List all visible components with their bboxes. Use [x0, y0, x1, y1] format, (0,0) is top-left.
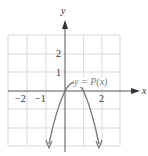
- x-axis-label: x: [142, 86, 146, 96]
- y-axis-arrow-icon: [62, 20, 68, 29]
- curve-label: y = P(x): [74, 77, 107, 87]
- y-tick-2: 2: [56, 49, 61, 59]
- x-tick-2: 2: [99, 94, 104, 104]
- curve-p-of-x: [49, 83, 99, 145]
- y-tick-1: 1: [56, 68, 61, 78]
- y-axis-label: y: [61, 6, 65, 16]
- x-tick-minus-1: −1: [35, 94, 46, 104]
- x-tick-minus-2: −2: [15, 94, 26, 104]
- x-axis-arrow-icon: [131, 88, 140, 94]
